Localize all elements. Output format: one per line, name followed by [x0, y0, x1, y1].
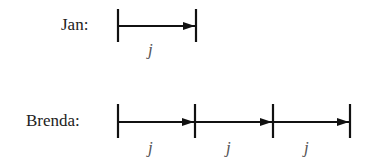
brenda-arrow-segments — [118, 104, 350, 138]
segment-diagram — [0, 0, 370, 163]
jan-arrow-segment — [118, 9, 196, 42]
